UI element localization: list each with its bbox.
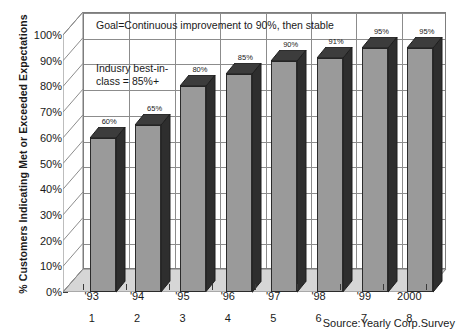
- x-tick-mark: [297, 284, 298, 290]
- x-tick-mark: [340, 284, 341, 290]
- bar-top-face: [271, 50, 307, 63]
- x-axis-year-label: '94: [111, 290, 163, 302]
- bar-value-label: 90%: [273, 40, 308, 49]
- x-axis-year-label: '98: [293, 290, 345, 302]
- x-axis-category: '942: [111, 290, 163, 324]
- bar-side-face: [252, 63, 262, 294]
- bar-column: [362, 12, 397, 292]
- plot-area: 60%65%80%85%90%91%95%95%: [63, 12, 448, 292]
- bar-front-face: [180, 86, 206, 292]
- bar-front-face: [90, 138, 116, 292]
- y-axis-ticks: 100%90%80%70%60%50%40%30%20%10%0%: [22, 0, 62, 335]
- bar-front-face: [271, 61, 297, 292]
- x-axis-index-label: 2: [111, 312, 163, 324]
- x-axis-year-label: '96: [202, 290, 254, 302]
- annotation-best-in-class: Indusry best-in- class = 85%+: [96, 62, 216, 87]
- bar-top-face: [317, 47, 353, 60]
- x-axis-category: '964: [202, 290, 254, 324]
- bar-front-face: [317, 58, 343, 292]
- bar-value-label: 65%: [137, 104, 172, 113]
- bar-column: [271, 12, 306, 292]
- bar-column: [90, 12, 125, 292]
- bar-side-face: [433, 37, 443, 294]
- x-axis-index-label: 5: [247, 312, 299, 324]
- bar-front-face: [135, 125, 161, 292]
- bar-side-face: [297, 50, 307, 294]
- y-tick-label: 0%: [22, 286, 62, 298]
- x-tick-mark: [212, 284, 213, 290]
- x-axis-year-label: '93: [66, 290, 118, 302]
- x-axis-year-label: 2000: [383, 290, 435, 302]
- x-axis-index-label: 3: [156, 312, 208, 324]
- y-tick-label: 90%: [22, 55, 62, 67]
- x-axis-category: '975: [247, 290, 299, 324]
- y-tick-label: 70%: [22, 106, 62, 118]
- y-tick-label: 80%: [22, 80, 62, 92]
- bar-side-face: [388, 37, 398, 294]
- bar-top-face: [407, 37, 443, 50]
- bar-front-face: [362, 48, 388, 292]
- x-axis-year-label: '97: [247, 290, 299, 302]
- x-tick-mark: [426, 284, 427, 290]
- bars-group: 60%65%80%85%90%91%95%95%: [63, 12, 448, 292]
- x-tick-mark: [83, 284, 84, 290]
- y-tick-label: 30%: [22, 209, 62, 221]
- x-axis-category: '953: [156, 290, 208, 324]
- y-tick-label: 40%: [22, 183, 62, 195]
- bar-top-face: [135, 114, 171, 127]
- y-tick-label: 50%: [22, 158, 62, 170]
- annotation-goal: Goal=Continuous improvement to 90%, then…: [96, 19, 341, 32]
- bar-top-face: [362, 37, 398, 50]
- y-tick-label: 60%: [22, 132, 62, 144]
- bar-value-label: 85%: [228, 53, 263, 62]
- bar-front-face: [226, 74, 252, 292]
- bar-value-label: 95%: [409, 27, 444, 36]
- bar-side-face: [161, 114, 171, 294]
- x-axis-index-label: 1: [66, 312, 118, 324]
- bar-value-label: 91%: [319, 37, 354, 46]
- bar-top-face: [90, 127, 126, 140]
- bar-column: [180, 12, 215, 292]
- x-axis-index-label: 4: [202, 312, 254, 324]
- x-tick-mark: [383, 284, 384, 290]
- bar-chart: % Customers Indicating Met or Exceeded E…: [0, 0, 464, 335]
- y-tick-label: 10%: [22, 260, 62, 272]
- x-tick-mark: [169, 284, 170, 290]
- x-axis-year-label: '95: [156, 290, 208, 302]
- bar-value-label: 60%: [92, 117, 127, 126]
- x-axis-category: '931: [66, 290, 118, 324]
- source-note: Source:Yearly Corp.Survey: [323, 317, 455, 329]
- bar-top-face: [226, 63, 262, 76]
- bar-side-face: [116, 127, 126, 294]
- bar-column: [317, 12, 352, 292]
- y-tick-label: 100%: [22, 29, 62, 41]
- bar-column: [407, 12, 442, 292]
- y-tick-label: 20%: [22, 235, 62, 247]
- bar-side-face: [206, 75, 216, 294]
- bar-front-face: [407, 48, 433, 292]
- x-axis-year-label: '99: [338, 290, 390, 302]
- bar-side-face: [343, 47, 353, 294]
- bar-value-label: 95%: [364, 27, 399, 36]
- bar-column: [135, 12, 170, 292]
- x-tick-mark: [255, 284, 256, 290]
- x-tick-mark: [126, 284, 127, 290]
